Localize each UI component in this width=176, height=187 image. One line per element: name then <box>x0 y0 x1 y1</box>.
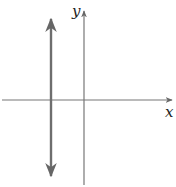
coordinate-plane: y x <box>0 0 176 187</box>
x-axis-label: x <box>165 103 174 121</box>
y-axis-label: y <box>71 2 81 20</box>
